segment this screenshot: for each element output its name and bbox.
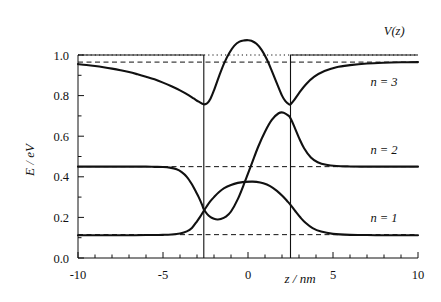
figure-quantum-well-energy-levels: 0.00.20.40.60.81.0 -10-50510 V(z)n = 3n …: [0, 0, 441, 302]
y-tick-label: 0.4: [53, 170, 69, 184]
plot-frame: [78, 55, 418, 258]
potential-profile-vz: [78, 55, 418, 258]
y-axis-title: E / eV: [22, 142, 37, 177]
y-tick-label: 0.0: [53, 252, 69, 266]
x-tick-label: 10: [412, 268, 425, 282]
x-axis-title: z / nm: [283, 271, 315, 286]
energy-level-chart: 0.00.20.40.60.81.0 -10-50510 V(z)n = 3n …: [0, 0, 441, 302]
x-tick-label: -10: [70, 268, 87, 282]
annotation-vz: V(z): [384, 24, 405, 38]
y-tick-label: 1.0: [53, 49, 69, 63]
x-axis-tick-labels: -10-50510: [70, 268, 425, 282]
annotation-n1: n = 1: [370, 211, 397, 225]
x-axis-ticks: [78, 252, 418, 258]
curve-n2: [78, 112, 418, 219]
annotation-n2: n = 2: [370, 143, 397, 157]
x-tick-label: 0: [245, 268, 251, 282]
curve-n1: [78, 182, 418, 236]
curve-n3: [78, 40, 418, 105]
energy-curves: [78, 40, 418, 235]
potential-vz-path: [78, 55, 418, 258]
annotation-n3: n = 3: [370, 75, 397, 89]
y-axis-tick-labels: 0.00.20.40.60.81.0: [53, 49, 69, 266]
x-tick-label: -5: [158, 268, 168, 282]
x-tick-label: 5: [330, 268, 336, 282]
y-tick-label: 0.8: [53, 89, 69, 103]
y-tick-label: 0.6: [53, 130, 69, 144]
y-axis-ticks: [78, 55, 84, 258]
energy-level-dashed-lines: [78, 62, 418, 235]
y-tick-label: 0.2: [53, 211, 69, 225]
curve-annotations: V(z)n = 3n = 2n = 1: [370, 24, 404, 226]
